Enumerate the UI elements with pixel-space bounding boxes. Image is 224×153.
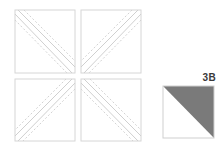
square-bottom-left	[15, 79, 75, 141]
result-label: 3B	[190, 72, 216, 83]
square-top-left	[15, 10, 75, 73]
square-bottom-right	[81, 79, 141, 141]
result-unit-3b	[163, 86, 214, 138]
square-top-right	[81, 10, 141, 73]
